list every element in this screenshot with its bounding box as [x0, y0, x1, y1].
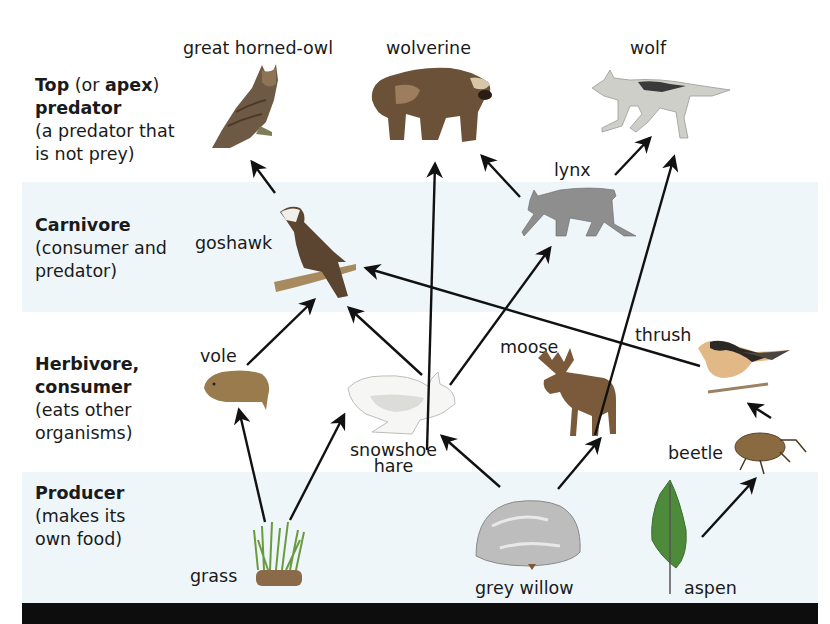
grass-icon	[254, 522, 304, 586]
arrow-lynx-wolf	[615, 138, 650, 175]
wolf-icon	[592, 70, 730, 138]
arrow-vole-goshawk	[247, 300, 314, 365]
aspen-icon	[652, 480, 687, 594]
arrow-willow-moose	[558, 439, 600, 489]
snowshoe-hare-icon	[348, 372, 455, 434]
arrow-grass-vole	[239, 410, 265, 522]
beetle-icon	[735, 433, 806, 474]
wolverine-icon	[372, 68, 492, 142]
moose-icon	[538, 348, 616, 436]
goshawk-icon	[274, 207, 356, 298]
lynx-icon	[522, 188, 636, 236]
arrow-aspen-beetle	[702, 479, 755, 537]
arrow-goshawk-owl	[252, 162, 275, 193]
arrow-beetle-thrush	[749, 404, 771, 418]
vole-icon	[204, 370, 269, 410]
arrow-hare-goshawk	[349, 308, 422, 375]
arrows	[239, 138, 771, 537]
thrush-icon	[698, 341, 790, 392]
arrow-lynx-wolverine	[482, 156, 520, 197]
grey-willow-icon	[476, 501, 580, 570]
arrow-thrush-goshawk	[366, 268, 700, 366]
arrow-willow-hare	[442, 436, 500, 487]
owl-icon	[212, 64, 278, 148]
arrow-grass-hare	[290, 415, 344, 520]
food-web-diagram	[0, 0, 830, 624]
